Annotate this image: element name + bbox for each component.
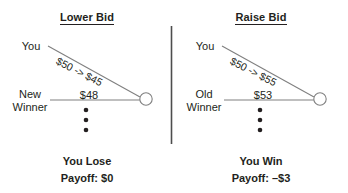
auction-bid-diagram: Lower Bid You $50 -> $45 New Winner $48 … <box>0 0 348 193</box>
raise-bid-ellipsis-dot-1 <box>258 108 263 113</box>
raise-bid-ellipsis-dot-2 <box>258 118 263 123</box>
lower-bid-you-diagonal-line <box>48 46 140 97</box>
lower-bid-ellipsis-dot-1 <box>84 108 89 113</box>
raise-bid-ellipsis-dot-3 <box>258 128 263 133</box>
raise-bid-intersection-marker <box>314 93 326 105</box>
raise-bid-you-diagonal-line <box>222 46 314 97</box>
lower-bid-ellipsis-dot-2 <box>84 118 89 123</box>
diagram-vector-layer <box>0 0 348 193</box>
lower-bid-intersection-marker <box>140 93 152 105</box>
lower-bid-ellipsis-dot-3 <box>84 128 89 133</box>
